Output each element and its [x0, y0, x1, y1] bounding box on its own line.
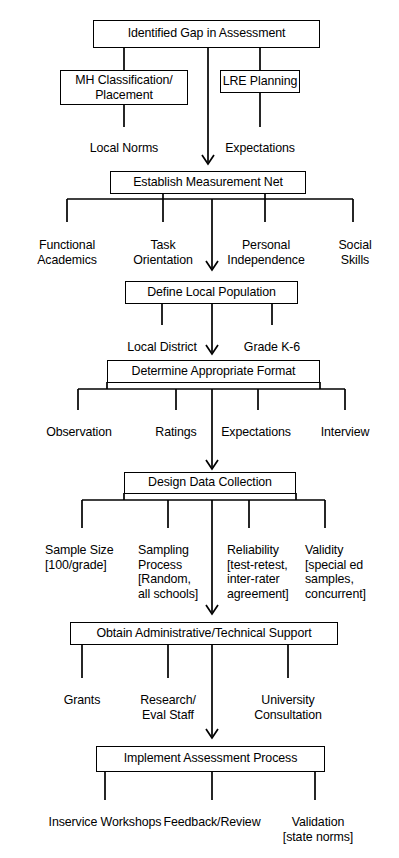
- box-label: Establish Measurement Net: [133, 176, 283, 190]
- box-implement-assessment-process[interactable]: Implement Assessment Process: [96, 746, 325, 772]
- box-label: MH Classification/ Placement: [75, 73, 172, 103]
- box-mh-classification-placement[interactable]: MH Classification/ Placement: [60, 70, 188, 105]
- box-label: Define Local Population: [147, 286, 276, 300]
- leaf-grade-k-6: Grade K-6: [244, 326, 300, 355]
- box-design-data-collection[interactable]: Design Data Collection: [124, 472, 296, 494]
- box-label: LRE Planning: [223, 75, 298, 89]
- box-label: Determine Appropriate Format: [132, 365, 296, 379]
- leaf-interview: Interview: [321, 411, 370, 440]
- leaf-reliability: Reliability [test-retest, inter-rater ag…: [227, 529, 289, 601]
- box-obtain-administrative-technical-support[interactable]: Obtain Administrative/Technical Support: [70, 622, 338, 645]
- box-define-local-population[interactable]: Define Local Population: [125, 281, 298, 304]
- box-label: Implement Assessment Process: [124, 752, 298, 766]
- flowchart-diagram: Identified Gap in Assessment MH Classifi…: [0, 0, 399, 858]
- box-label: Identified Gap in Assessment: [128, 27, 286, 41]
- leaf-university-consultation: University Consultation: [233, 679, 344, 722]
- leaf-local-norms: Local Norms: [90, 127, 158, 156]
- leaf-validity: Validity [special ed samples, concurrent…: [305, 529, 366, 601]
- box-identified-gap[interactable]: Identified Gap in Assessment: [93, 20, 320, 48]
- leaf-expectations-lre: Expectations: [225, 127, 295, 156]
- leaf-inservice-workshops: Inservice Workshops: [49, 801, 162, 830]
- leaf-expectations-format: Expectations: [221, 411, 291, 440]
- leaf-sampling-process: Sampling Process [Random, all schools]: [138, 529, 198, 601]
- leaf-ratings: Ratings: [155, 411, 196, 440]
- leaf-feedback-review: Feedback/Review: [164, 801, 261, 830]
- leaf-social-skills: Social Skills: [338, 224, 371, 267]
- leaf-grants: Grants: [64, 679, 101, 708]
- leaf-validation: Validation [state norms]: [283, 801, 353, 844]
- leaf-local-district: Local District: [127, 326, 197, 355]
- box-lre-planning[interactable]: LRE Planning: [220, 70, 300, 93]
- box-establish-measurement-net[interactable]: Establish Measurement Net: [110, 171, 306, 194]
- leaf-observation: Observation: [46, 411, 112, 440]
- box-label: Design Data Collection: [148, 476, 272, 490]
- leaf-sample-size: Sample Size [100/grade]: [45, 529, 113, 572]
- box-label: Obtain Administrative/Technical Support: [96, 627, 311, 641]
- leaf-task-orientation: Task Orientation: [133, 224, 193, 267]
- leaf-functional-academics: Functional Academics: [37, 224, 97, 267]
- leaf-personal-independence: Personal Independence: [227, 224, 304, 267]
- leaf-research-eval-staff: Research/ Eval Staff: [140, 679, 196, 722]
- box-determine-appropriate-format[interactable]: Determine Appropriate Format: [107, 360, 320, 383]
